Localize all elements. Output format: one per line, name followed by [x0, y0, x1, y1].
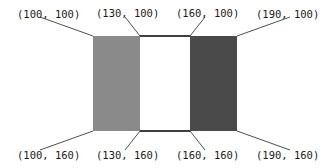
coord-label: (130, 160) [96, 149, 159, 161]
coord-label: (190, 100) [256, 8, 319, 20]
coord-label: (130, 100) [96, 7, 159, 19]
coord-label: (100, 160) [17, 149, 80, 161]
coord-label: (160, 100) [176, 7, 239, 19]
leader-line [40, 131, 93, 150]
leader-line [237, 131, 290, 150]
diagram-canvas [0, 0, 327, 168]
leader-line [125, 17, 140, 36]
coord-label: (190, 160) [256, 149, 319, 161]
right-dark-rect [190, 36, 237, 131]
coord-label: (100, 100) [17, 8, 80, 20]
left-gray-rect [93, 36, 140, 131]
leader-line [190, 131, 205, 150]
leader-line [125, 131, 140, 150]
leader-line [190, 17, 205, 36]
coord-label: (160, 160) [176, 149, 239, 161]
coordinate-diagram: (100, 100) (130, 100) (160, 100) (190, 1… [0, 0, 327, 168]
